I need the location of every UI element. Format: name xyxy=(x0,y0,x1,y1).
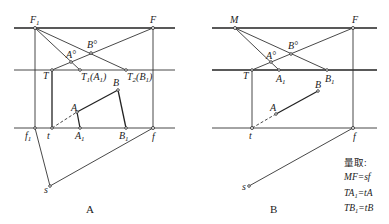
label-t-ground: t xyxy=(47,130,50,141)
segment-ab xyxy=(77,90,118,112)
segment-b-b1 xyxy=(118,90,126,128)
label-b1-ground: B1 xyxy=(119,130,129,143)
label-b: B xyxy=(113,77,119,88)
label-t-b: T xyxy=(243,70,250,81)
label-b-b: B xyxy=(315,79,321,90)
label-m: M xyxy=(229,14,239,25)
diagram-b: M F B° A° T A1 B1 B A t f s B 量取: MF=sf … xyxy=(212,14,377,215)
label-a: A xyxy=(70,102,78,113)
label-s: s xyxy=(44,184,48,195)
label-t1-a1: T1(A1) xyxy=(81,71,107,84)
label-f: F xyxy=(149,14,157,25)
label-f-ground-b: f xyxy=(353,131,357,142)
label-f1: F1 xyxy=(29,14,40,27)
segment-ab-b xyxy=(276,91,318,114)
notes-line1: MF=sf xyxy=(343,172,372,182)
label-b-deg: B° xyxy=(87,39,97,50)
label-f-b: F xyxy=(351,14,359,25)
caption-a: A xyxy=(86,203,94,215)
label-s-b: s xyxy=(242,181,246,192)
extension-ta xyxy=(52,112,77,128)
label-a1-b: A1 xyxy=(275,73,286,86)
notes-line2: TA1=tA xyxy=(344,188,373,199)
diagram-a: F1 F B° A° T T1(A1) T2(B1) B A f1 t A1 B… xyxy=(14,14,175,215)
ray-m-a1 xyxy=(235,28,279,70)
notes-title: 量取: xyxy=(344,158,367,168)
ray-m-b1 xyxy=(235,28,327,70)
label-f1-ground: f1 xyxy=(25,130,31,143)
segment-a-a1 xyxy=(77,112,80,128)
line-s-f xyxy=(50,128,153,186)
label-t-ground-b: t xyxy=(249,130,252,141)
label-t2-b1: T2(B1) xyxy=(127,71,153,84)
extension-ta-b xyxy=(252,114,276,128)
caption-b: B xyxy=(270,203,277,215)
label-f-ground: f xyxy=(152,131,156,142)
label-a-deg: A° xyxy=(65,49,76,60)
perspective-diagrams: F1 F B° A° T T1(A1) T2(B1) B A f1 t A1 B… xyxy=(0,0,389,224)
line-s-f-b xyxy=(249,128,353,186)
label-b1-b: B1 xyxy=(325,73,335,86)
ray-t-f-b xyxy=(252,28,353,70)
label-a-b: A xyxy=(269,102,277,113)
ray-f1-t2 xyxy=(35,28,126,70)
label-a-deg-b: A° xyxy=(265,50,276,61)
notes-line3: TB1=tB xyxy=(344,203,373,214)
label-a1-ground: A1 xyxy=(74,130,85,143)
label-b-deg-b: B° xyxy=(288,40,298,51)
label-t: T xyxy=(43,70,50,81)
